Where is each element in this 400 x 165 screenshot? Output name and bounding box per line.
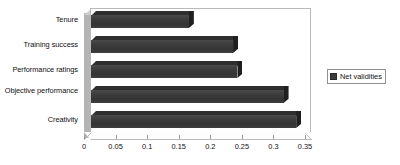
legend-swatch-net-validities <box>330 73 337 80</box>
x-tick-mark <box>305 135 306 139</box>
bar-training-success <box>91 36 238 61</box>
category-label-creativity: Creativity <box>0 116 78 125</box>
bar-body <box>91 15 189 28</box>
x-tick-mark <box>242 135 243 139</box>
legend-label-net-validities: Net validities <box>340 72 382 81</box>
x-tick-label: 0.3 <box>268 142 278 151</box>
x-tick-mark <box>179 135 180 139</box>
bar-body <box>91 115 296 128</box>
bar-tenure <box>91 11 194 36</box>
chart-legend: Net validities <box>327 69 386 84</box>
bar-body <box>91 90 284 103</box>
bar-chart: Tenure Training success Performance rati… <box>0 0 400 165</box>
bar-end-face <box>284 86 289 103</box>
x-tick-label: 0.2 <box>205 142 215 151</box>
x-tick-mark <box>84 135 85 139</box>
x-tick-label: 0.35 <box>298 142 312 151</box>
category-label-objective-performance: Objective performance <box>0 87 78 96</box>
x-tick-label: 0.25 <box>235 142 249 151</box>
bar-creativity <box>91 111 301 136</box>
value-axis: 00.050.10.150.20.250.30.35 <box>84 140 316 162</box>
bar-end-face <box>189 11 194 28</box>
bar-end-face <box>296 111 301 128</box>
bar-body <box>91 65 237 78</box>
x-tick-mark <box>116 135 117 139</box>
bar-end-face <box>233 36 238 53</box>
bar-objective-performance <box>91 86 289 111</box>
x-tick-label: 0 <box>82 142 86 151</box>
category-label-training-success: Training success <box>0 41 78 50</box>
bar-performance-ratings <box>91 61 242 86</box>
category-label-tenure: Tenure <box>0 16 78 25</box>
category-axis-labels: Tenure Training success Performance rati… <box>0 12 82 140</box>
x-tick-label: 0.15 <box>172 142 186 151</box>
x-tick-mark <box>273 135 274 139</box>
x-tick-mark <box>210 135 211 139</box>
bar-end-face <box>237 61 242 78</box>
x-tick-label: 0.1 <box>142 142 152 151</box>
x-tick-label: 0.05 <box>108 142 122 151</box>
category-label-performance-ratings: Performance ratings <box>0 66 78 75</box>
x-tick-mark <box>147 135 148 139</box>
bar-body <box>91 40 233 53</box>
plot-area <box>84 8 312 142</box>
